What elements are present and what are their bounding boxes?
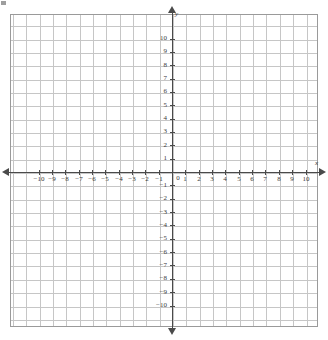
- y-axis-tick: [170, 52, 175, 53]
- x-axis-left-arrow-icon: [2, 168, 9, 176]
- gridline-horizontal: [11, 320, 317, 321]
- x-axis-tick: [239, 170, 240, 175]
- y-axis-tick: [170, 132, 175, 133]
- x-axis-tick: [252, 170, 253, 175]
- y-axis-tick: [170, 212, 175, 213]
- y-axis-tick: [170, 145, 175, 146]
- x-axis-tick: [292, 170, 293, 175]
- y-axis-down-arrow-icon: [168, 328, 176, 335]
- x-axis-label: x: [315, 159, 318, 167]
- y-axis-tick-label: −6: [151, 249, 167, 256]
- y-axis-tick: [170, 79, 175, 80]
- y-axis-tick-label: 2: [151, 142, 167, 149]
- y-axis-tick-label: 9: [151, 48, 167, 55]
- y-axis-tick-label: −4: [151, 222, 167, 229]
- y-axis-tick-label: 3: [151, 128, 167, 135]
- x-axis-tick: [185, 170, 186, 175]
- y-axis-tick: [170, 225, 175, 226]
- y-axis-line: [172, 13, 173, 328]
- x-axis-line: [9, 172, 319, 173]
- y-axis-tick: [170, 39, 175, 40]
- y-axis-tick: [170, 92, 175, 93]
- y-axis-tick-label: −1: [151, 182, 167, 189]
- coordinate-plane-figure: x y 0 −10−9−8−7−6−5−4−3−2−11234567891010…: [0, 0, 328, 340]
- x-axis-tick: [225, 170, 226, 175]
- y-axis-tick: [170, 105, 175, 106]
- x-axis-tick: [132, 170, 133, 175]
- y-axis-tick: [170, 265, 175, 266]
- gridline-horizontal: [11, 26, 317, 27]
- x-axis-tick: [265, 170, 266, 175]
- x-axis-tick: [199, 170, 200, 175]
- x-axis-tick: [119, 170, 120, 175]
- y-axis-tick-label: −7: [151, 262, 167, 269]
- gridline-horizontal: [11, 173, 317, 174]
- x-axis-tick: [306, 170, 307, 175]
- y-axis-tick-label: −8: [151, 275, 167, 282]
- y-axis-tick-label: 7: [151, 75, 167, 82]
- y-axis-tick: [170, 119, 175, 120]
- y-axis-tick-label: −10: [151, 302, 167, 309]
- y-axis-tick-label: 10: [151, 35, 167, 42]
- y-axis-tick-label: 1: [151, 155, 167, 162]
- y-axis-tick-label: 8: [151, 62, 167, 69]
- y-axis-tick-label: −2: [151, 195, 167, 202]
- x-axis-tick: [79, 170, 80, 175]
- y-axis-tick-label: −5: [151, 235, 167, 242]
- y-axis-tick: [170, 159, 175, 160]
- scan-artifact-mark: [1, 1, 6, 5]
- y-axis-label: y: [175, 10, 178, 18]
- y-axis-tick-label: 4: [151, 115, 167, 122]
- y-axis-tick: [170, 199, 175, 200]
- y-axis-tick-label: −3: [151, 209, 167, 216]
- x-axis-tick-label: 10: [298, 176, 314, 183]
- y-axis-tick: [170, 239, 175, 240]
- x-axis-tick: [279, 170, 280, 175]
- x-axis-tick: [65, 170, 66, 175]
- x-axis-tick: [145, 170, 146, 175]
- x-axis-tick: [212, 170, 213, 175]
- y-axis-tick: [170, 279, 175, 280]
- x-axis-tick: [105, 170, 106, 175]
- y-axis-tick: [170, 65, 175, 66]
- x-axis-tick: [159, 170, 160, 175]
- x-axis-tick: [39, 170, 40, 175]
- y-axis-tick-label: 6: [151, 88, 167, 95]
- y-axis-tick-label: −9: [151, 289, 167, 296]
- y-axis-tick: [170, 306, 175, 307]
- y-axis-tick: [170, 252, 175, 253]
- y-axis-tick-label: 5: [151, 102, 167, 109]
- x-axis-tick: [52, 170, 53, 175]
- x-axis-right-arrow-icon: [319, 168, 326, 176]
- x-axis-tick: [92, 170, 93, 175]
- y-axis-tick: [170, 185, 175, 186]
- y-axis-tick: [170, 292, 175, 293]
